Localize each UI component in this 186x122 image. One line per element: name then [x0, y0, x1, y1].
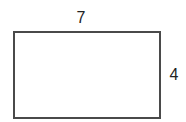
rectangle-shape — [13, 31, 161, 119]
height-label: 4 — [168, 67, 180, 83]
rectangle-diagram: 7 4 — [0, 0, 186, 122]
width-label: 7 — [74, 10, 88, 26]
